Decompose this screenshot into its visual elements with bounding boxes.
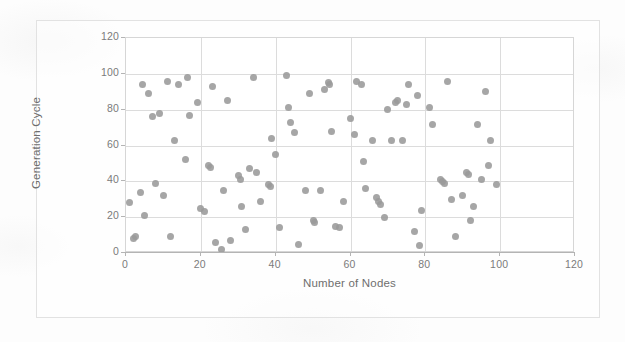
data-point [347,115,354,122]
y-tick-label-60: 60 [85,138,119,151]
y-tick-label-0: 0 [85,245,119,258]
data-point [452,233,459,240]
data-point [429,121,436,128]
x-tick-label-60: 60 [330,258,370,270]
gridline-x-100 [500,38,501,251]
y-tick-0 [121,252,125,253]
data-point [295,241,302,248]
data-point [384,106,391,113]
gridline-y-100 [126,74,573,75]
x-tick-40 [275,252,276,256]
data-point [441,180,448,187]
y-tick-120 [121,37,125,38]
data-point [351,131,358,138]
data-point [237,176,244,183]
data-point [485,162,492,169]
x-tick-0 [125,252,126,256]
data-point [201,208,208,215]
gridline-x-20 [201,38,202,251]
data-point [287,119,294,126]
x-axis-title: Number of Nodes [125,277,574,289]
x-tick-label-100: 100 [479,258,519,270]
data-point [182,156,189,163]
gridline-y-80 [126,110,573,111]
data-point [381,214,388,221]
data-point [414,92,421,99]
data-point [482,88,489,95]
data-point [167,233,174,240]
y-tick-60 [121,145,125,146]
data-point [145,90,152,97]
data-point [246,165,253,172]
y-tick-40 [121,180,125,181]
y-tick-label-120: 120 [85,30,119,43]
data-point [207,164,214,171]
data-point [474,121,481,128]
x-tick-80 [424,252,425,256]
data-point [411,228,418,235]
data-point [149,113,156,120]
data-point [493,181,500,188]
data-point [283,72,290,79]
data-point [253,169,260,176]
data-point [362,185,369,192]
data-point [302,187,309,194]
data-point [209,83,216,90]
data-point [470,203,477,210]
data-point [388,137,395,144]
data-point [317,187,324,194]
gridline-x-60 [351,38,352,251]
data-point [242,226,249,233]
data-point [360,158,367,165]
x-tick-label-20: 20 [180,258,220,270]
data-point [152,180,159,187]
data-point [478,176,485,183]
gridline-x-40 [276,38,277,251]
data-point [156,110,163,117]
data-point [426,104,433,111]
data-point [257,198,264,205]
data-point [238,203,245,210]
data-point [184,74,191,81]
x-tick-120 [574,252,575,256]
data-point [139,81,146,88]
data-point [171,137,178,144]
data-point [336,224,343,231]
data-point [272,151,279,158]
y-tick-label-100: 100 [85,66,119,79]
data-point [267,183,274,190]
data-point [186,112,193,119]
data-point [160,192,167,199]
y-axis-tick-labels: 020406080100120 [79,0,119,342]
gridline-y-60 [126,146,573,147]
data-point [291,129,298,136]
data-point [459,192,466,199]
gridline-y-20 [126,217,573,218]
data-point [227,237,234,244]
data-point [137,189,144,196]
x-tick-label-120: 120 [554,258,594,270]
data-point [487,137,494,144]
x-tick-20 [200,252,201,256]
data-point [126,199,133,206]
y-tick-label-20: 20 [85,209,119,222]
data-point [399,137,406,144]
data-point [416,242,423,249]
data-point [358,81,365,88]
data-point [224,97,231,104]
data-point [328,128,335,135]
data-point [132,233,139,240]
data-point [212,239,219,246]
y-axis-title: Generation Cycle [30,88,42,198]
data-point [326,81,333,88]
data-point [465,171,472,178]
y-tick-100 [121,73,125,74]
x-tick-label-40: 40 [255,258,295,270]
x-tick-60 [350,252,351,256]
data-point [340,198,347,205]
data-point [444,78,451,85]
data-point [448,196,455,203]
data-point [394,97,401,104]
data-point [175,81,182,88]
data-point [369,137,376,144]
